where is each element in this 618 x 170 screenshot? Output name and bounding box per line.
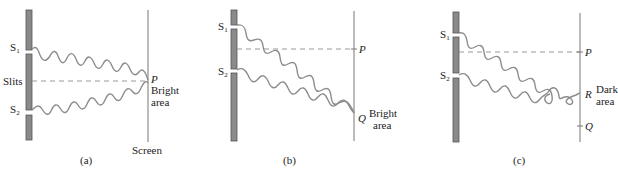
bright-area-label-line2: area — [373, 120, 391, 131]
slit-s1-label: S1 — [10, 42, 20, 57]
bright-area-label-line2: area — [151, 97, 169, 108]
slit-label-subscript: 1 — [224, 26, 228, 34]
panel-c — [453, 12, 583, 142]
slit-label-subscript: 1 — [446, 34, 450, 42]
caption-b: (b) — [283, 155, 296, 166]
double-slit-diagram — [0, 0, 618, 170]
barrier-top — [26, 10, 32, 50]
slit-s1-label: S1 — [440, 29, 450, 44]
slit-s2-label: S2 — [218, 66, 228, 81]
point-q-label: Q — [358, 113, 366, 124]
bright-area-label-line1: Bright — [369, 108, 397, 119]
barrier-top — [231, 10, 237, 25]
barrier-bottom — [26, 115, 32, 140]
slit-label-subscript: 1 — [16, 47, 20, 55]
slit-s2-label: S2 — [10, 104, 20, 119]
point-p-label: P — [359, 44, 366, 55]
point-p-label: P — [585, 47, 592, 58]
barrier-middle — [26, 54, 32, 110]
slit-label-subscript: 2 — [224, 71, 228, 79]
barrier-top — [453, 12, 459, 33]
barrier-bottom — [231, 73, 237, 141]
panel-b — [231, 10, 357, 141]
slit-s2-label: S2 — [440, 70, 450, 85]
wave-s2 — [32, 82, 148, 115]
point-r-label: R — [585, 89, 592, 100]
barrier-bottom — [453, 78, 459, 142]
slit-label-subscript: 2 — [446, 75, 450, 83]
screen-label: Screen — [132, 145, 162, 156]
wave-s1 — [237, 25, 354, 113]
caption-c: (c) — [513, 155, 525, 166]
wave-s1 — [459, 33, 552, 104]
slit-label-subscript: 2 — [16, 109, 20, 117]
panel-a — [26, 10, 148, 142]
slit-s1-label: S1 — [218, 21, 228, 36]
dark-area-label-line1: Dark — [596, 84, 618, 95]
dark-area-label-line2: area — [596, 96, 614, 107]
wave-s1 — [32, 48, 148, 80]
barrier-middle — [453, 37, 459, 73]
wave-s2 — [237, 69, 354, 113]
barrier-middle — [231, 29, 237, 69]
point-q-label: Q — [585, 121, 593, 132]
slits-label: Slits — [3, 76, 23, 87]
caption-a: (a) — [80, 155, 92, 166]
bright-area-label-line1: Bright — [151, 85, 179, 96]
